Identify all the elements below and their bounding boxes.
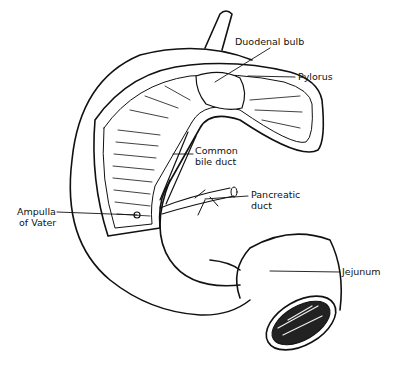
duodenum-inner-wall (160, 180, 240, 286)
label-ampulla-line1: Ampulla (17, 206, 56, 217)
leader-pancreatic-duct (205, 196, 248, 199)
label-pancreatic-duct-line1: Pancreatic (251, 189, 300, 200)
label-pancreatic-duct-line2: duct (251, 200, 272, 211)
leader-ampulla (57, 212, 137, 215)
label-pylorus: Pylorus (298, 71, 333, 82)
leader-duodenal-bulb (215, 48, 270, 82)
duodenal-bulb (196, 72, 245, 109)
stomach-tube (205, 11, 232, 50)
label-common-bile-duct-line1: Common (195, 145, 238, 156)
label-ampulla-line2: of Vater (19, 217, 56, 228)
duodenum-illustration (0, 0, 394, 372)
label-jejunum: Jejunum (342, 266, 381, 277)
leader-jejunum (270, 271, 340, 272)
label-duodenal-bulb: Duodenal bulb (235, 36, 304, 47)
label-common-bile-duct-line2: bile duct (195, 156, 236, 167)
